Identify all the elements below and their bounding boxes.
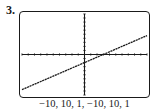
graph-plot	[20, 12, 149, 97]
problem-number: 3.	[6, 4, 15, 16]
window-settings-caption: −10, 10, 1, −10, 10, 1	[0, 99, 151, 110]
calculator-screen	[19, 11, 150, 98]
